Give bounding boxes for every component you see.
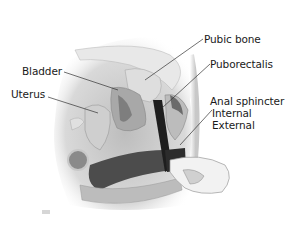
anatomy-diagram: Pubic bone Bladder Puborectalis Uterus A… bbox=[0, 0, 296, 230]
label-bladder: Bladder bbox=[22, 65, 62, 77]
label-uterus: Uterus bbox=[11, 88, 45, 100]
label-external: External bbox=[212, 119, 255, 131]
label-anal-sphincter: Anal sphincter bbox=[210, 95, 284, 107]
label-internal: Internal bbox=[212, 107, 252, 119]
label-puborectalis: Puborectalis bbox=[210, 58, 273, 70]
label-pubic-bone: Pubic bone bbox=[204, 33, 261, 45]
